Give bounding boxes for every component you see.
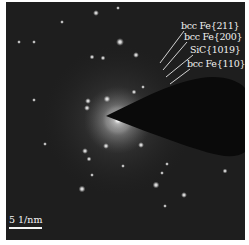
label-sic-1019: SiC{1019} [190, 45, 240, 55]
label-bcc-fe-211: bcc Fe{211} [181, 21, 239, 31]
label-bcc-fe-110: bcc Fe{110} [187, 59, 245, 69]
scale-bar-label: 5 1/nm [9, 214, 42, 225]
label-bcc-fe-200: bcc Fe{200} [184, 32, 242, 42]
scale-bar [9, 227, 42, 229]
